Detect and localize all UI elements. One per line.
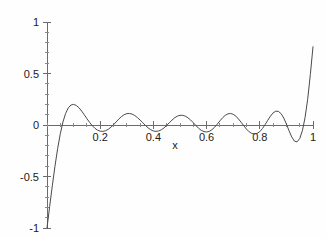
x-axis-tick-label: 0.8 — [252, 131, 267, 143]
y-axis-tick-label: 1 — [33, 16, 39, 28]
chart-container: 10.50-0.5-10.20.40.60.81 x — [0, 0, 326, 238]
y-axis-tick-label: -0.5 — [20, 171, 39, 183]
y-axis-tick-label: -1 — [29, 222, 39, 234]
x-axis-label: x — [172, 139, 178, 151]
line-chart: 10.50-0.5-10.20.40.60.81 x — [0, 0, 326, 238]
x-axis-tick-label: 0.2 — [93, 131, 108, 143]
x-axis-tick-label: 1 — [310, 131, 316, 143]
y-axis-tick-label: 0 — [33, 119, 39, 131]
x-axis-tick-label: 0.4 — [146, 131, 161, 143]
chart-background — [0, 0, 326, 238]
x-axis-tick-label: 0.6 — [199, 131, 214, 143]
y-axis-tick-label: 0.5 — [24, 68, 39, 80]
